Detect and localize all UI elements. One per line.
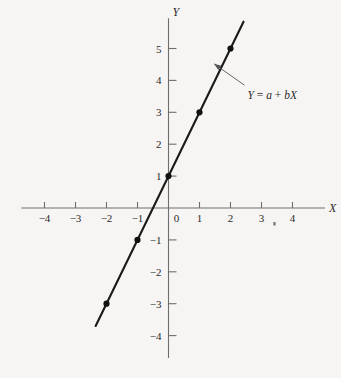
chart-figure: −4−3−2−112340−4−3−2−112345 Y = a + bX XY [0, 0, 341, 378]
x-axis-tick-label: 1 [197, 212, 203, 224]
x-axis-tick-label: −4 [39, 212, 51, 224]
y-axis-tick-label: −4 [150, 330, 162, 342]
x-axis-tick-label: 2 [228, 212, 234, 224]
y-axis-tick-label: 1 [156, 170, 162, 182]
chart-background [0, 0, 341, 378]
x-axis-tick-label: −2 [101, 212, 113, 224]
x-axis-tick-label: −1 [132, 212, 144, 224]
y-axis-tick-label: 4 [156, 74, 162, 86]
x-axis-tick-label: 4 [290, 212, 296, 224]
data-point-marker [165, 173, 171, 179]
line-chart-svg: −4−3−2−112340−4−3−2−112345 Y = a + bX XY [0, 0, 341, 378]
data-point-marker [103, 301, 109, 307]
x-axis-name: X [328, 201, 337, 215]
x-axis-tick-label: 3 [259, 212, 265, 224]
scan-speck-artifact [273, 222, 275, 225]
data-point-marker [227, 45, 233, 51]
y-axis-tick-label: −2 [150, 266, 162, 278]
x-axis-tick-label-zero: 0 [174, 212, 180, 224]
data-point-marker [196, 109, 202, 115]
y-axis-tick-label: 2 [156, 138, 162, 150]
y-axis-tick-label: 5 [156, 43, 162, 55]
scan-artifact-layer [273, 222, 275, 225]
y-axis-tick-label: −1 [150, 234, 162, 246]
y-axis-tick-label: −3 [150, 298, 162, 310]
y-axis-tick-label: 3 [156, 106, 162, 118]
x-axis-tick-label: −3 [70, 212, 82, 224]
annotation-label: Y = a + bX [248, 89, 298, 101]
data-point-marker [134, 237, 140, 243]
